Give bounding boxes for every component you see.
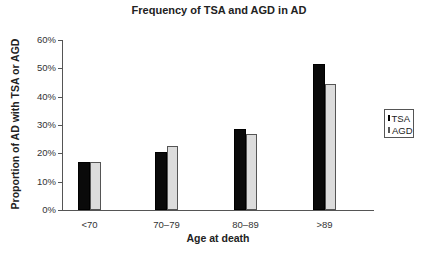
legend-label-tsa: TSA: [392, 113, 410, 124]
y-tick: [58, 182, 62, 183]
y-tick-label: 30%: [16, 119, 56, 130]
bar-agd: [90, 162, 102, 210]
x-axis-label: Age at death: [62, 232, 374, 244]
bar-agd: [246, 134, 258, 211]
y-tick: [58, 210, 62, 211]
y-tick-label: 20%: [16, 147, 56, 158]
x-category-label: 80–89: [216, 219, 276, 230]
legend-swatch-tsa-icon: [388, 115, 390, 121]
x-category-label: 70–79: [137, 219, 197, 230]
plot-area: 0%10%20%30%40%50%60%<7070–7980–89>89: [62, 40, 374, 210]
legend-swatch-agd-icon: [388, 127, 390, 133]
x-category-label: <70: [60, 219, 120, 230]
bar-agd: [167, 146, 179, 210]
y-tick-label: 50%: [16, 62, 56, 73]
y-tick-label: 10%: [16, 176, 56, 187]
legend-item-agd: AGD: [388, 124, 410, 136]
y-tick-label: 40%: [16, 91, 56, 102]
chart-title: Frequency of TSA and AGD in AD: [0, 4, 438, 16]
y-tick: [58, 40, 62, 41]
y-tick: [58, 125, 62, 126]
legend-label-agd: AGD: [392, 125, 413, 136]
y-axis-line: [62, 40, 63, 211]
y-tick: [58, 97, 62, 98]
legend: TSA AGD: [384, 109, 414, 138]
bar-tsa: [78, 162, 90, 210]
bar-tsa: [234, 129, 246, 210]
bar-tsa: [155, 152, 167, 210]
y-tick-label: 60%: [16, 34, 56, 45]
x-category-label: >89: [295, 219, 355, 230]
y-tick: [58, 153, 62, 154]
y-tick-label: 0%: [16, 204, 56, 215]
x-axis-line: [62, 210, 374, 211]
legend-item-tsa: TSA: [388, 112, 410, 124]
bar-tsa: [313, 64, 325, 210]
y-tick: [58, 68, 62, 69]
bar-agd: [325, 84, 337, 210]
